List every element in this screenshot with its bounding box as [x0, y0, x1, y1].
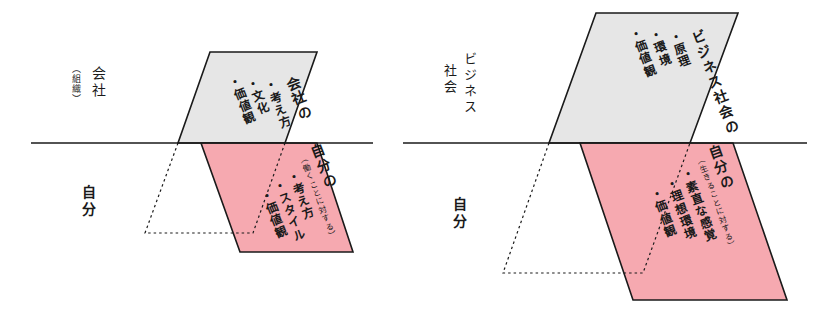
right-upper-side-line1: ビジネス [460, 52, 479, 116]
right-upper-side-line2: 社会 [440, 64, 459, 96]
left-upper-side-sublabel: （組織） [70, 64, 83, 104]
left-upper-side-label: （組織） 会社 [70, 64, 85, 104]
left-upper-side-mainlabel: 会社 [88, 66, 108, 100]
left-lower-side-label: 自分 [80, 185, 95, 219]
right-lower-side-label: 自分 [451, 197, 466, 231]
